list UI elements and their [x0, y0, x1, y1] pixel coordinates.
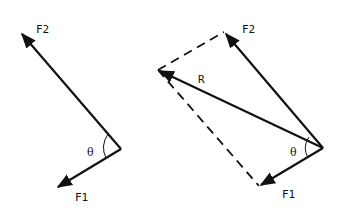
angle-arc-left [103, 134, 108, 158]
f2-label-left: F2 [36, 23, 49, 36]
left-diagram: F2 F1 θ [22, 23, 121, 204]
f2-vector-left [22, 34, 121, 149]
dashed-edge-top [158, 32, 224, 70]
f2-vector-right [226, 34, 323, 148]
theta-label-left: θ [87, 146, 94, 159]
r-label: R [198, 73, 205, 86]
f2-label-right: F2 [242, 23, 255, 36]
f1-label-left: F1 [75, 191, 88, 204]
theta-label-right: θ [290, 146, 297, 159]
resultant-vector [160, 71, 323, 148]
force-diagram: F2 F1 θ F2 R F1 θ [0, 0, 343, 212]
right-diagram: F2 R F1 θ [158, 23, 323, 201]
f1-label-right: F1 [282, 188, 295, 201]
dashed-edge-left [158, 70, 259, 186]
